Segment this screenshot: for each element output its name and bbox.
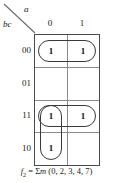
caption-function-subscript: 2: [23, 172, 26, 178]
kmap-cell: 1: [35, 132, 67, 164]
caption-minterms: (0, 2, 3, 4, 7): [48, 166, 92, 176]
caption-m-variable: m: [40, 166, 46, 176]
row-header-01: 01: [6, 79, 31, 88]
row-variable-label: bc: [3, 20, 12, 29]
row-header-10: 10: [6, 144, 31, 153]
kmap-cell: [67, 67, 99, 99]
row-header-11: 11: [6, 111, 31, 120]
caption-equals: =: [28, 166, 33, 176]
kmap-cell: 1: [35, 100, 67, 132]
kmap-cell: 1: [67, 100, 99, 132]
kmap-cell: 1: [35, 35, 67, 67]
diagonal-divider-icon: [2, 2, 36, 34]
column-header-1: 1: [66, 19, 98, 28]
kmap-cell: [67, 132, 99, 164]
figure-caption: f2 = Σm (0, 2, 3, 4, 7): [0, 167, 113, 178]
kmap-cell: 1: [67, 35, 99, 67]
karnaugh-map-figure: a bc 0 1 00 01 11 10 1 1 1 1 1 f2 = Σm (…: [0, 0, 113, 183]
row-header-00: 00: [6, 46, 31, 55]
kmap-grid: 1 1 1 1 1: [34, 34, 100, 166]
column-header-0: 0: [34, 19, 66, 28]
kmap-cell: [35, 67, 67, 99]
corner-header-diagonal: [2, 2, 36, 34]
column-variable-label: a: [24, 5, 29, 14]
